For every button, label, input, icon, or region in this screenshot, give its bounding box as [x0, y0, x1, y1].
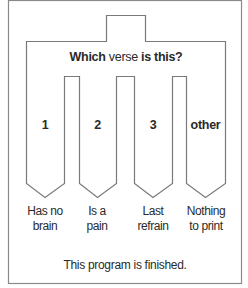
question-part-which: Which: [70, 50, 106, 64]
result-case-3: Last refrain: [124, 204, 182, 234]
case-label-other: other: [186, 118, 225, 132]
result-case-1: Has no brain: [16, 204, 74, 234]
result-line-2: brain: [16, 219, 74, 234]
question-part-is-this: is this?: [141, 50, 182, 64]
outer-frame: [9, 1, 242, 284]
decision-question: Which verse is this?: [26, 50, 226, 64]
flowchart-outline: [0, 0, 248, 288]
result-case-other: Nothing to print: [176, 204, 236, 234]
result-line-2: refrain: [124, 219, 182, 234]
result-case-2: Is a pain: [68, 204, 126, 234]
result-line-1: Nothing: [176, 204, 236, 219]
result-line-2: to print: [176, 219, 236, 234]
result-line-1: Has no: [16, 204, 74, 219]
case-label-1: 1: [26, 118, 64, 132]
result-line-1: Is a: [68, 204, 126, 219]
case-label-2: 2: [79, 118, 116, 132]
question-part-verse: verse: [109, 50, 138, 64]
result-line-2: pain: [68, 219, 126, 234]
result-line-1: Last: [124, 204, 182, 219]
program-finished-text: This program is finished.: [8, 258, 242, 272]
switch-branch-shape: [27, 16, 226, 198]
case-label-3: 3: [134, 118, 172, 132]
